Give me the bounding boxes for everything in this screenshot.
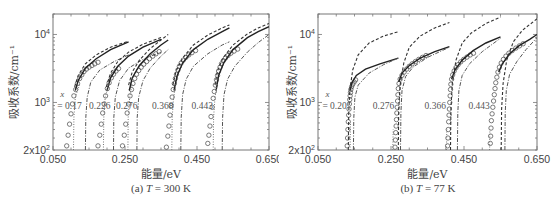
composition-label: 0.443 <box>468 101 490 111</box>
composition-label: = 0.17 <box>57 101 82 111</box>
series-line-dotted <box>172 84 176 151</box>
composition-label: 0.443 <box>192 101 214 111</box>
data-point-circle <box>122 133 126 137</box>
data-point-circle <box>491 99 495 103</box>
data-point-circle <box>209 114 213 118</box>
series-line-solid <box>350 58 398 90</box>
data-point-circle <box>99 122 103 126</box>
data-point-circle <box>157 49 161 53</box>
composition-label: 0.276 <box>373 101 395 111</box>
y-tick-label: 103 <box>299 96 315 108</box>
data-point-circle <box>489 118 493 122</box>
data-point-circle <box>207 133 211 137</box>
data-point-circle <box>66 133 70 137</box>
data-point-circle <box>345 136 349 140</box>
data-point-circle <box>166 134 170 138</box>
data-point-circle <box>394 130 398 134</box>
composition-label: 0.368 <box>152 101 174 111</box>
data-point-circle <box>490 112 494 116</box>
data-point-circle <box>445 144 449 148</box>
series-line-solid <box>499 35 537 73</box>
y-axis-label: 吸收系数/cm⁻¹ <box>5 27 21 137</box>
composition-label: = 0.20 <box>322 101 347 111</box>
data-point-circle <box>69 112 73 116</box>
y-tick-label: 2x102 <box>23 144 50 156</box>
data-point-circle <box>124 122 128 126</box>
x-tick-label: 0.250 <box>112 153 138 165</box>
legend-variable: x <box>59 89 64 99</box>
data-point-circle <box>346 127 350 131</box>
data-point-circle <box>168 113 172 117</box>
x-axis-label: 能量/eV <box>318 165 537 181</box>
data-point-circle <box>488 134 492 138</box>
y-tick-label: 103 <box>34 96 50 108</box>
y-axis-label: 吸收系数/cm⁻¹ <box>283 27 299 137</box>
y-tick-label: 2x102 <box>288 144 315 156</box>
data-point-circle <box>120 144 124 148</box>
data-point-circle <box>393 138 397 142</box>
x-tick-label: 0.450 <box>184 153 210 165</box>
data-point-circle <box>492 93 496 97</box>
series-line-dashed <box>398 23 449 151</box>
plot-frame <box>53 14 269 150</box>
series-line-dashed <box>348 32 398 150</box>
x-tick-label: 0.650 <box>524 153 550 165</box>
data-point-circle <box>393 145 397 149</box>
data-point-circle <box>446 120 450 124</box>
y-tick-label: 104 <box>299 28 315 40</box>
chart-caption: (b) T = 77 K <box>289 182 558 194</box>
data-point-circle <box>394 117 398 121</box>
data-point-circle <box>206 141 210 145</box>
data-point-circle <box>67 122 71 126</box>
caption-prefix: (b) <box>400 182 416 194</box>
x-tick-label: 0.650 <box>256 153 279 165</box>
data-point-circle <box>64 144 68 148</box>
data-point-circle <box>394 124 398 128</box>
data-point-circle <box>491 105 495 109</box>
x-tick-label: 0.450 <box>451 153 477 165</box>
data-point-circle <box>493 86 497 90</box>
data-point-circle <box>167 124 171 128</box>
composition-label: 0.226 <box>89 101 111 111</box>
series-line-dashed <box>173 25 230 85</box>
y-tick-label: 104 <box>34 28 50 40</box>
data-point-circle <box>96 144 100 148</box>
x-axis-label: 能量/eV <box>53 165 269 181</box>
data-point-circle <box>488 141 492 145</box>
legend-variable: x <box>324 89 329 99</box>
caption-prefix: (a) <box>131 182 146 194</box>
series-line-solid <box>399 47 450 82</box>
chart-panel-300k: 0.0500.2500.4500.6502x102103104x= 0.170.… <box>0 0 279 205</box>
series-line-dashed <box>215 24 269 86</box>
series-group <box>64 24 269 151</box>
data-point-circle <box>208 124 212 128</box>
composition-label: 0.366 <box>425 101 447 111</box>
x-tick-label: 0.250 <box>378 153 404 165</box>
series-group <box>345 17 537 150</box>
data-point-circle <box>164 145 168 149</box>
data-point-circle <box>494 81 498 85</box>
data-point-circle <box>98 133 102 137</box>
composition-label: 0.276 <box>116 101 138 111</box>
series-line-dashdot <box>401 47 450 150</box>
chart-panel-77k: 0.0500.2500.4500.6502x102103104x= 0.200.… <box>279 0 558 205</box>
chart-caption: (a) T = 300 K <box>25 182 297 194</box>
data-point-circle <box>495 75 499 79</box>
series-line-dashdot <box>457 38 500 150</box>
caption-suffix: = 77 K <box>422 182 455 194</box>
caption-suffix: = 300 K <box>152 182 191 194</box>
series-line-dashed <box>106 38 161 87</box>
